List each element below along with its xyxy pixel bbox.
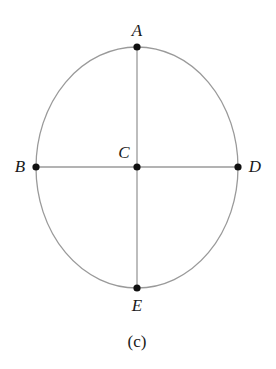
point-label-a: A (132, 22, 143, 39)
point-label-b: B (15, 158, 26, 175)
point-marker-a (133, 43, 140, 50)
point-marker-e (133, 284, 140, 291)
point-marker-c (133, 163, 140, 170)
point-label-e: E (132, 297, 143, 314)
point-marker-d (234, 163, 241, 170)
figure-container: A B C D E (c) (0, 0, 276, 369)
point-label-c: C (118, 144, 130, 161)
figure-caption: (c) (128, 333, 147, 350)
point-marker-b (32, 163, 39, 170)
point-label-d: D (249, 158, 261, 175)
